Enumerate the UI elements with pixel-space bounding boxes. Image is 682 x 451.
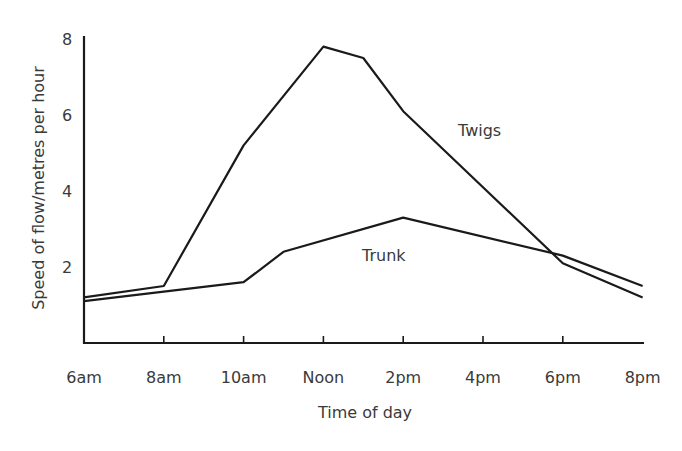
- y-tick-label: 6: [62, 106, 72, 125]
- x-tick-label: 2pm: [385, 368, 421, 387]
- x-axis-title: Time of day: [317, 403, 412, 422]
- x-tick-label: 6am: [66, 368, 102, 387]
- x-tick-label: 10am: [221, 368, 267, 387]
- y-axis-title: Speed of flow/metres per hour: [29, 66, 48, 310]
- x-tick-label: 8pm: [625, 368, 661, 387]
- series-label-twigs: Twigs: [457, 121, 501, 140]
- x-axis-tick-labels: 6am8am10amNoon2pm4pm6pm8pm: [66, 368, 660, 387]
- x-tick-label: 4pm: [465, 368, 501, 387]
- x-tick-label: Noon: [303, 368, 345, 387]
- y-tick-label: 8: [62, 30, 72, 49]
- series-label-trunk: Trunk: [361, 246, 406, 265]
- x-tick-label: 8am: [146, 368, 182, 387]
- x-tick-label: 6pm: [545, 368, 581, 387]
- y-axis-tick-labels: 2468: [62, 30, 72, 277]
- y-tick-label: 4: [62, 182, 72, 201]
- line-chart: 6am8am10amNoon2pm4pm6pm8pm 2468 Twigs Tr…: [0, 0, 682, 451]
- y-tick-label: 2: [62, 258, 72, 277]
